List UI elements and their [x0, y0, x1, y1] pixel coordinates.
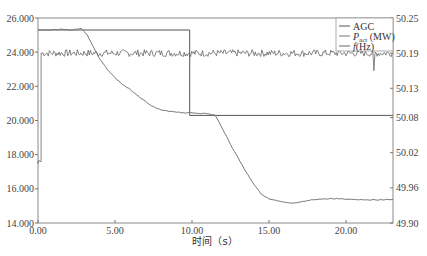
y-right-tick-label: 50.08 — [396, 112, 419, 123]
y-right-tick-label: 50.13 — [396, 83, 419, 94]
x-tick-label: 15.00 — [258, 225, 281, 236]
y-right-tick-label: 50.19 — [396, 48, 419, 59]
y-right-tick-label: 50.02 — [396, 147, 419, 158]
chart: 14.00016.00018.00020.00022.00024.00026.0… — [0, 0, 427, 256]
y-left-tick-label: 16.000 — [7, 183, 35, 194]
y-left-tick-label: 22.000 — [7, 81, 35, 92]
legend: AGCPact (MW)f(Hz) — [336, 18, 395, 53]
x-axis-title: 时间（s） — [192, 235, 237, 247]
x-tick-label: 5.00 — [106, 225, 124, 236]
y-left-tick-label: 18.000 — [7, 149, 35, 160]
y-right-tick-label: 50.25 — [396, 13, 419, 24]
y-left-tick-label: 20.000 — [7, 115, 35, 126]
x-tick-label: 0.00 — [29, 225, 47, 236]
y-right-tick-label: 49.90 — [396, 218, 419, 229]
y-left-tick-label: 24.000 — [7, 47, 35, 58]
legend-label: f(Hz) — [353, 41, 374, 53]
x-tick-label: 20.00 — [335, 225, 358, 236]
series-line-2 — [38, 50, 392, 164]
x-tick-label: 10.00 — [181, 225, 204, 236]
series-layer — [38, 29, 393, 204]
y-right-tick-label: 49.96 — [396, 182, 419, 193]
y-left-tick-label: 26.000 — [7, 13, 35, 24]
